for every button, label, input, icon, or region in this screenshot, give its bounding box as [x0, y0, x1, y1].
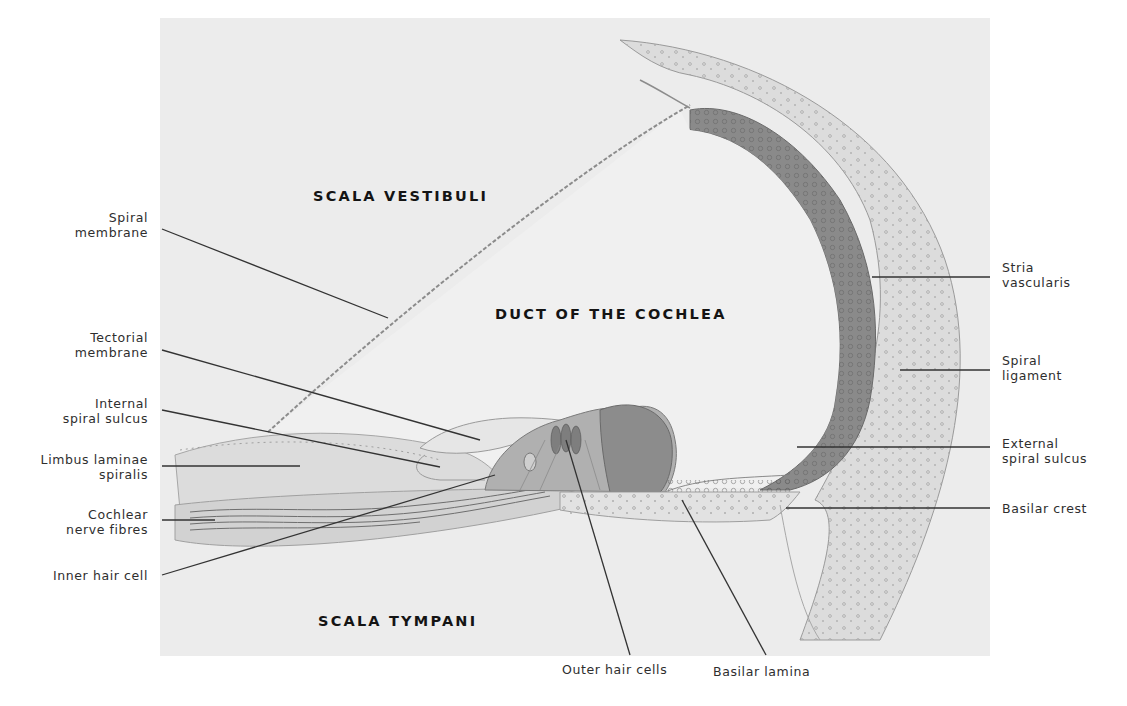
label-tectorial-membrane: Tectorial membrane	[75, 330, 148, 360]
label-stria-vascularis: Stria vascularis	[1002, 260, 1071, 290]
label-external-spiral-sulcus: External spiral sulcus	[1002, 436, 1087, 466]
label-outer-hair-cells: Outer hair cells	[562, 662, 667, 677]
region-label-duct-of-cochlea: DUCT OF THE COCHLEA	[495, 306, 727, 322]
label-limbus-laminae-spiralis: Limbus laminae spiralis	[41, 452, 148, 482]
label-spiral-ligament: Spiral ligament	[1002, 353, 1062, 383]
region-label-scala-vestibuli: SCALA VESTIBULI	[313, 188, 488, 204]
label-inner-hair-cell: Inner hair cell	[53, 568, 148, 583]
diagram-illustration	[0, 0, 1127, 706]
cochlea-diagram: SCALA VESTIBULI DUCT OF THE COCHLEA SCAL…	[0, 0, 1127, 706]
label-basilar-lamina: Basilar lamina	[713, 664, 810, 679]
label-basilar-crest: Basilar crest	[1002, 501, 1087, 516]
region-label-scala-tympani: SCALA TYMPANI	[318, 613, 477, 629]
label-spiral-membrane: Spiral membrane	[75, 210, 148, 240]
label-cochlear-nerve-fibres: Cochlear nerve fibres	[66, 507, 148, 537]
label-internal-spiral-sulcus: Internal spiral sulcus	[63, 396, 148, 426]
